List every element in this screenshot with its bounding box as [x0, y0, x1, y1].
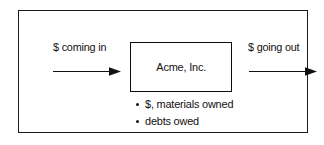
arrow-right-icon	[52, 66, 122, 77]
outflow-label: $ going out	[248, 41, 299, 53]
list-item: $, materials owned	[136, 97, 238, 111]
inflow-arrow-right-icon	[52, 66, 122, 77]
entity-box: Acme, Inc.	[130, 42, 232, 92]
entity-name: Acme, Inc.	[156, 61, 206, 73]
arrow-right-icon	[248, 66, 318, 77]
business-cash-flow-diagram: $ coming in Acme, Inc. $ going out $, ma…	[0, 0, 324, 145]
holdings-item-label: debts owed	[145, 114, 199, 128]
holdings-list: $, materials owned debts owed	[136, 97, 238, 131]
diagram-outer-frame: $ coming in Acme, Inc. $ going out $, ma…	[18, 10, 308, 133]
arrow-head	[305, 67, 317, 76]
outflow-arrow-right-icon	[248, 66, 318, 77]
list-item: debts owed	[136, 114, 238, 128]
holdings-item-label: $, materials owned	[145, 97, 233, 111]
bullet-dot-icon	[136, 103, 139, 106]
inflow-label: $ coming in	[53, 41, 106, 53]
bullet-dot-icon	[136, 120, 139, 123]
arrow-head	[109, 67, 121, 76]
